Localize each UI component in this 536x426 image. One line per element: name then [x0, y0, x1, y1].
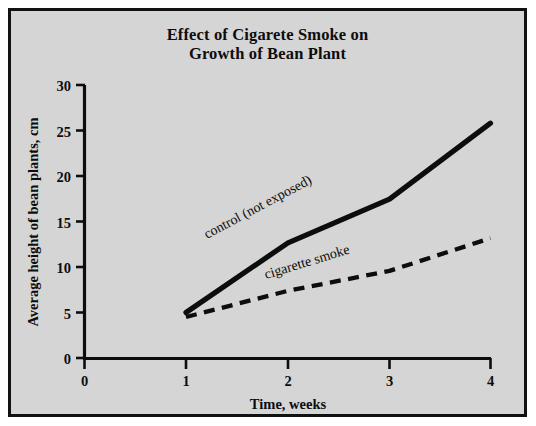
x-tick-label-1: 1	[182, 373, 189, 389]
y-tick-label-25: 25	[57, 124, 72, 140]
figure-frame: Effect of Cigarete Smoke on Growth of Be…	[8, 8, 527, 417]
x-axis-tick-labels: 0 1 2 3 4	[81, 373, 494, 389]
x-tick-label-4: 4	[487, 373, 494, 389]
x-tick-label-2: 2	[284, 373, 291, 389]
y-tick-label-0: 0	[64, 351, 71, 367]
x-tick-label-0: 0	[81, 373, 88, 389]
y-axis-title: Average height of bean plants, cm	[25, 117, 41, 326]
y-tick-label-10: 10	[57, 260, 72, 276]
y-tick-label-20: 20	[57, 169, 72, 185]
y-axis-tick-labels: 30 25 20 15 10 5 0	[57, 78, 72, 367]
x-tick-label-3: 3	[386, 373, 393, 389]
y-tick-label-5: 5	[64, 306, 71, 322]
y-tick-label-30: 30	[57, 78, 72, 94]
y-tick-label-15: 15	[57, 215, 72, 231]
x-axis-title: Time, weeks	[250, 396, 327, 412]
chart-plot: 30 25 20 15 10 5 0 0 1 2 3	[11, 11, 524, 414]
series-label-control: control (not exposed)	[201, 172, 315, 243]
series-label-cigarette-smoke: cigarette smoke	[262, 242, 351, 282]
figure-inner: Effect of Cigarete Smoke on Growth of Be…	[11, 11, 524, 414]
